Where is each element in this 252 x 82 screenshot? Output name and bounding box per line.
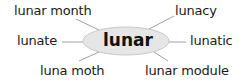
center-word: lunar	[103, 31, 149, 49]
spoke-label-lunate: lunate	[17, 34, 57, 48]
spoke-label-lunar-module: lunar module	[145, 64, 229, 78]
line-bottom-right	[154, 52, 168, 61]
spoke-label-lunatic: lunatic	[190, 34, 233, 48]
spoke-label-lunar-month: lunar month	[14, 4, 92, 18]
spoke-label-lunacy: lunacy	[175, 4, 217, 18]
line-bottom-left	[79, 52, 99, 61]
line-top-right	[149, 16, 174, 29]
spoke-label-luna-moth: luna moth	[40, 64, 104, 78]
line-top-left	[76, 19, 99, 30]
word-web-diagram: lunar lunar month lunacy lunate lunatic …	[0, 0, 252, 82]
